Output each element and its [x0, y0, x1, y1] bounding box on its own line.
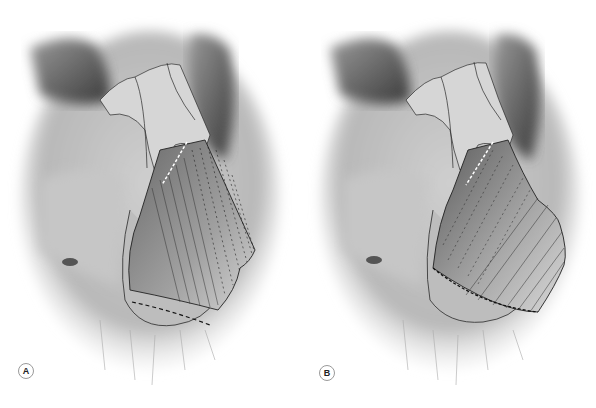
infraorbital-foramen: [366, 256, 382, 264]
infraorbital-foramen: [62, 258, 78, 266]
panel-label-a: A: [18, 363, 34, 379]
panel-a: A: [0, 0, 298, 408]
panel-label-b: B: [319, 365, 335, 381]
nasal-illustration-a: [0, 0, 298, 408]
nasal-illustration-b: [298, 0, 596, 408]
panel-b: B: [298, 0, 596, 408]
